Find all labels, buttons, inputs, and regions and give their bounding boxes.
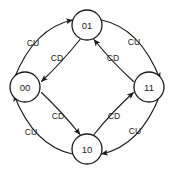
state-node-11-label: 11 <box>144 82 154 93</box>
state-node-01-label: 01 <box>82 20 93 31</box>
edge-label-01-to-11: CU <box>128 37 140 47</box>
state-node-00-label: 00 <box>20 82 31 93</box>
state-diagram-canvas: CU CU CU CU CD CD CD CD 01 00 11 <box>0 0 174 173</box>
edge-10-to-00 <box>14 95 73 154</box>
edge-01-to-11 <box>102 20 161 79</box>
edge-label-10-to-00: CU <box>25 127 37 137</box>
state-diagram-container: CU CU CU CU CD CD CD CD 01 00 11 <box>0 0 174 173</box>
state-node-01[interactable]: 01 <box>72 10 102 40</box>
edge-11-to-10 <box>102 95 161 154</box>
edge-label-00-to-01: CU <box>27 38 39 48</box>
state-node-11[interactable]: 11 <box>134 72 164 102</box>
state-node-00[interactable]: 00 <box>10 72 40 102</box>
edge-labels-layer: CU CU CU CU CD CD CD CD <box>25 37 141 137</box>
nodes-layer: 01 00 11 10 <box>10 10 164 164</box>
edge-label-10-to-11: CD <box>108 111 120 121</box>
edge-label-11-to-10: CU <box>129 126 141 136</box>
edge-label-00-to-10: CD <box>52 111 64 121</box>
edge-00-to-01 <box>14 20 73 79</box>
edge-label-11-to-01: CD <box>107 53 119 63</box>
edge-label-01-to-00: CD <box>51 53 63 63</box>
state-node-10[interactable]: 10 <box>72 134 102 164</box>
state-node-10-label: 10 <box>82 144 93 155</box>
